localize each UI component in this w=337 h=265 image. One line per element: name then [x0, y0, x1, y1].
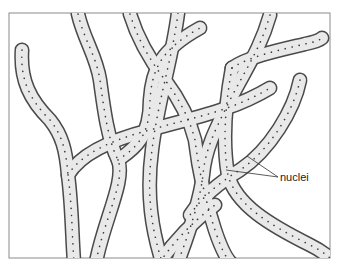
hyphae-illustration: nuclei [0, 0, 337, 265]
hyphae-drawing [0, 0, 337, 265]
nuclei-label: nuclei [280, 171, 309, 183]
